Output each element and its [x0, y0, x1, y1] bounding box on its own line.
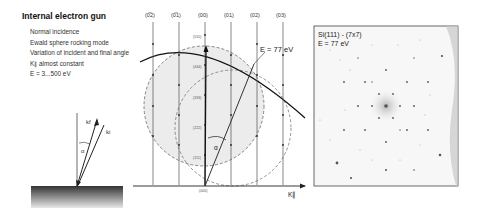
- alpha-label: α: [81, 148, 85, 154]
- rod-label: (02): [250, 12, 260, 18]
- spot-label: (555): [193, 35, 201, 39]
- ewald-diagram: (0̅2) (0̅1) (00) (01) (02) (03) (555) (4…: [133, 12, 306, 199]
- axis-arrowhead: [300, 184, 306, 189]
- diagram-canvas: kf ki α (0̅2): [0, 0, 481, 210]
- spot-label: (444): [193, 65, 201, 69]
- kf-label: kf: [86, 119, 91, 125]
- rod-label: (01): [224, 12, 234, 18]
- leed-pattern-image: Si(111) - (7x7) E = 77 eV: [314, 26, 458, 186]
- rod-label: (00): [198, 12, 208, 18]
- spot-label: (000): [199, 189, 207, 193]
- ki-vector: [78, 125, 104, 185]
- alpha-arc: [79, 142, 90, 144]
- rod-label: (0̅1): [171, 12, 181, 18]
- sample-surface: [31, 186, 123, 208]
- leed-surface-label: Si(111) - (7x7): [318, 31, 362, 39]
- rod-label: (0̅2): [145, 12, 155, 18]
- k-parallel-label: K∥: [288, 191, 296, 199]
- energy-label: E = 77 eV: [260, 45, 293, 54]
- spot-label: (111): [193, 156, 201, 160]
- spot-label: (222): [193, 126, 201, 130]
- kf-vector: [77, 120, 97, 186]
- ewald-sphere-shaded: [144, 46, 264, 166]
- incidence-schematic: kf ki α: [31, 113, 123, 208]
- alpha-label: α: [214, 144, 218, 151]
- ki-label: ki: [106, 129, 110, 135]
- spot-label: (333): [193, 96, 201, 100]
- kf-arrowhead: [94, 118, 99, 126]
- rod-label: (03): [276, 12, 286, 18]
- leed-energy-label: E = 77 eV: [318, 40, 349, 47]
